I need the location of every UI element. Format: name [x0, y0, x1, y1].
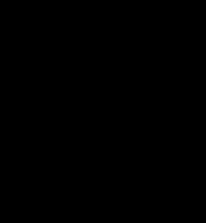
figure-background [0, 0, 206, 223]
diagram-svg [0, 0, 206, 223]
figure-canvas [0, 0, 206, 223]
